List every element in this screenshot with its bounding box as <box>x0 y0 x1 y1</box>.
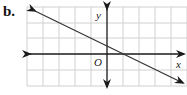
plotted-line <box>35 11 183 83</box>
y-axis-label: y <box>95 9 101 21</box>
x-axis-label: x <box>175 58 181 70</box>
coordinate-plane: y O x <box>0 0 187 95</box>
origin-label: O <box>94 56 102 68</box>
